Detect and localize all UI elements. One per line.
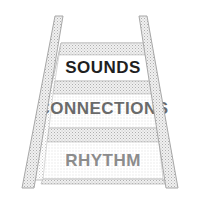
step-connections[interactable]: CONNECTIONS: [37, 94, 168, 128]
step-rhythm-label: RHYTHM: [65, 151, 141, 170]
tread-top-surface: [59, 43, 147, 55]
bottom-edge-face: [41, 179, 165, 184]
riser-sounds-connections-face: [53, 81, 153, 94]
bottom-edge: [41, 179, 165, 184]
step-rhythm[interactable]: RHYTHM: [43, 142, 163, 179]
stairs-svg: SOUNDS CONNECTIONS RHYTHM: [0, 0, 198, 198]
riser-connections-rhythm-face: [47, 128, 159, 142]
riser-connections-rhythm: [47, 128, 159, 142]
step-sounds[interactable]: SOUNDS: [55, 55, 151, 81]
stairs-illustration: SOUNDS CONNECTIONS RHYTHM: [0, 0, 198, 198]
step-sounds-label: SOUNDS: [65, 58, 141, 77]
riser-sounds-connections: [53, 81, 153, 94]
step-connections-label: CONNECTIONS: [37, 99, 168, 118]
tread-top: [59, 43, 147, 55]
